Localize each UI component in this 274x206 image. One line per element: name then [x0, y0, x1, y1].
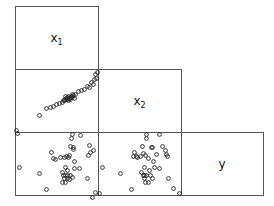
- points-x2-vs-y: [98, 133, 182, 196]
- data-point: [87, 154, 91, 158]
- data-point: [50, 151, 54, 155]
- data-point: [141, 145, 145, 149]
- scatter-panel-x1-vs-x2: [16, 70, 99, 133]
- data-point: [161, 145, 165, 149]
- data-point: [45, 107, 49, 111]
- data-point: [153, 166, 157, 170]
- data-point: [147, 157, 151, 161]
- data-point: [152, 160, 156, 164]
- data-point: [130, 188, 134, 192]
- data-point: [70, 137, 74, 141]
- data-point: [101, 166, 105, 170]
- points-x1-vs-y: [16, 132, 98, 200]
- data-point: [73, 167, 77, 171]
- data-point: [92, 149, 96, 153]
- data-point: [86, 177, 90, 181]
- data-point: [167, 177, 171, 181]
- points-x1-vs-x2: [15, 71, 100, 133]
- data-point: [155, 153, 159, 157]
- diagonal-labels: x1x2y: [50, 31, 225, 171]
- data-point: [59, 156, 63, 160]
- data-point: [66, 169, 70, 173]
- scatter-panel-x2-vs-y: [99, 133, 182, 196]
- data-point: [145, 137, 149, 141]
- data-point: [91, 196, 95, 200]
- data-point: [45, 188, 49, 192]
- data-point: [38, 114, 42, 118]
- data-point: [164, 149, 168, 153]
- data-point: [133, 151, 137, 155]
- data-point: [88, 144, 92, 148]
- data-point: [148, 169, 152, 173]
- data-point: [178, 192, 182, 196]
- data-point: [145, 133, 149, 137]
- data-point: [73, 160, 77, 164]
- data-point: [94, 191, 98, 195]
- scatter-panel-x1-vs-y: [16, 133, 99, 196]
- data-point: [151, 177, 155, 181]
- data-point: [18, 166, 22, 170]
- data-point: [158, 167, 162, 171]
- label-x2: x2: [133, 94, 145, 110]
- data-point: [158, 133, 162, 137]
- scatterplot-matrix: x1x2y: [0, 0, 274, 206]
- data-point: [143, 166, 147, 170]
- data-point: [79, 134, 83, 138]
- label-x1: x1: [50, 31, 62, 47]
- data-point: [119, 172, 123, 176]
- data-point: [71, 133, 75, 137]
- data-point: [172, 187, 176, 191]
- label-y: y: [218, 157, 225, 171]
- data-point: [78, 167, 82, 171]
- data-point: [38, 172, 42, 176]
